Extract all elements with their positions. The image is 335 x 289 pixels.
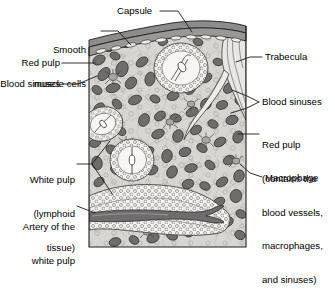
label-macrophage: Macrophage	[265, 172, 318, 183]
tissue-body	[79, 21, 248, 248]
label-white-pulp-line-1: White pulp	[0, 174, 75, 185]
label-smooth-muscle-cells-line-1: Smooth	[0, 44, 86, 55]
label-artery-of-white-pulp: Artery of the white pulp	[0, 199, 75, 289]
label-blood-sinuses-left: Blood sinuses	[0, 78, 60, 89]
label-red-pulp-right-line-5: and sinuses)	[262, 274, 323, 285]
label-red-pulp-right-line-4: macrophages,	[262, 240, 323, 251]
label-artery-of-white-pulp-line-2: white pulp	[0, 255, 75, 266]
label-red-pulp-right: Red pulp (contains the blood vessels, ma…	[262, 117, 323, 289]
label-red-pulp-right-line-1: Red pulp	[262, 139, 323, 150]
label-capsule: Capsule	[117, 5, 152, 16]
label-artery-of-white-pulp-line-1: Artery of the	[0, 221, 75, 232]
label-blood-sinuses-right: Blood sinuses	[262, 96, 322, 107]
label-red-pulp-right-line-3: blood vessels,	[262, 207, 323, 218]
label-trabecula: Trabecula	[265, 51, 307, 62]
tissue-contents	[79, 29, 248, 248]
label-red-pulp-left: Red pulp	[0, 57, 60, 68]
white-pulp-nodule-upper	[154, 43, 208, 93]
white-pulp-nodule-left-lower	[110, 139, 154, 181]
